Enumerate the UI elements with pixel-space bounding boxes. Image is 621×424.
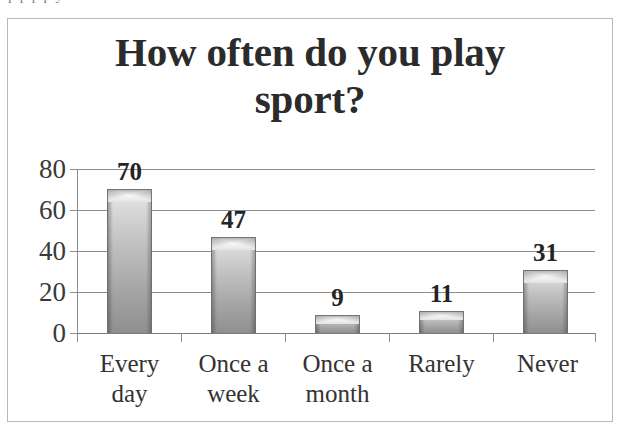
scanned-page-bleed: p p p p y (0, 0, 621, 17)
x-tick-5 (595, 333, 596, 342)
category-label-never: Never (505, 349, 590, 379)
category-label-rarely: Rarely (399, 349, 484, 379)
bar-rarely[interactable] (419, 311, 464, 333)
chart-frame: How often do you play sport? 80 60 40 20… (7, 18, 613, 422)
x-tick-0 (77, 333, 78, 342)
x-tick-4 (493, 333, 494, 342)
plot-area: 80 60 40 20 0 70 47 9 (8, 19, 612, 421)
category-label-every-day-line-1: Every (89, 349, 170, 379)
x-tick-2 (285, 333, 286, 342)
category-label-rarely-line-1: Rarely (399, 349, 484, 379)
category-label-once-a-month-line-1: Once a (293, 349, 382, 379)
value-label-rarely: 11 (407, 281, 476, 306)
y-tick-60 (70, 210, 78, 211)
bar-cap-once-a-week (211, 237, 256, 250)
y-axis-label-40: 40 (14, 238, 66, 265)
bar-cap-every-day (107, 189, 152, 202)
bar-cap-rarely (419, 311, 464, 320)
category-label-every-day: Every day (89, 349, 170, 409)
y-tick-40 (70, 251, 78, 252)
axis-baseline (77, 333, 595, 334)
x-tick-1 (181, 333, 182, 342)
y-axis-label-60: 60 (14, 197, 66, 224)
bar-cap-once-a-month (315, 315, 360, 324)
category-label-once-a-month: Once a month (293, 349, 382, 409)
x-tick-3 (389, 333, 390, 342)
category-label-once-a-month-line-2: month (293, 379, 382, 409)
category-label-once-a-week-line-2: week (191, 379, 276, 409)
y-axis-label-20: 20 (14, 279, 66, 306)
gridline-60 (77, 210, 595, 211)
value-label-once-a-month: 9 (303, 285, 372, 310)
category-label-once-a-week: Once a week (191, 349, 276, 409)
scanned-page-bleed-text: p p p p y (8, 0, 63, 4)
y-axis-label-80: 80 (14, 156, 66, 183)
bar-once-a-week[interactable] (211, 237, 256, 333)
bar-never[interactable] (523, 270, 568, 333)
category-label-once-a-week-line-1: Once a (191, 349, 276, 379)
y-tick-80 (70, 169, 78, 170)
value-label-every-day: 70 (95, 159, 164, 184)
bar-every-day[interactable] (107, 189, 152, 333)
x-axis-category-labels: Every day Once a week Once a month Rarel… (8, 349, 612, 421)
y-tick-20 (70, 292, 78, 293)
bar-once-a-month[interactable] (315, 315, 360, 333)
value-label-once-a-week: 47 (199, 207, 268, 232)
category-label-every-day-line-2: day (89, 379, 170, 409)
bar-cap-never (523, 270, 568, 283)
y-axis-label-0: 0 (14, 320, 66, 347)
category-label-never-line-1: Never (505, 349, 590, 379)
value-label-never: 31 (511, 240, 580, 265)
